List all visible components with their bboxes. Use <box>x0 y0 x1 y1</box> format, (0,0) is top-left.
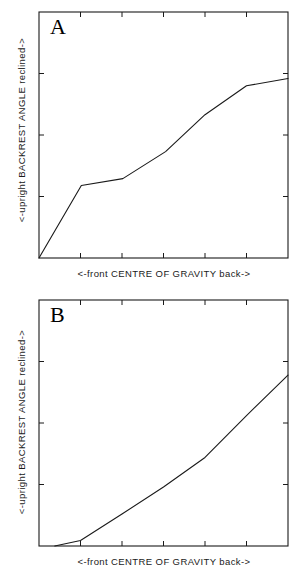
chart-panel-a: A <-front CENTRE OF GRAVITY back-> <-upr… <box>0 0 297 290</box>
y-axis-label-b: <-upright BACKREST ANGLE reclined-> <box>14 297 30 547</box>
chart-plot-b <box>0 292 297 582</box>
x-axis-label-b: <-front CENTRE OF GRAVITY back-> <box>39 556 289 567</box>
data-line <box>55 375 288 546</box>
chart-panel-b: B <-front CENTRE OF GRAVITY back-> <-upr… <box>0 292 297 582</box>
y-axis-label-a: <-upright BACKREST ANGLE reclined-> <box>14 5 30 255</box>
x-axis-label-a: <-front CENTRE OF GRAVITY back-> <box>39 268 289 279</box>
chart-plot-a <box>0 0 297 290</box>
figure-container: A <-front CENTRE OF GRAVITY back-> <-upr… <box>0 0 297 585</box>
panel-letter-a: A <box>50 14 66 40</box>
data-line <box>39 78 288 258</box>
plot-frame <box>39 300 288 546</box>
panel-letter-b: B <box>50 302 65 328</box>
plot-frame <box>39 12 288 258</box>
